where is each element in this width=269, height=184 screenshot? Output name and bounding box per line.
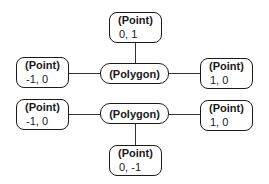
node-coords: -1, 0: [26, 73, 48, 85]
node-type-label: (Point): [25, 101, 60, 113]
node-coords: 0, -1: [119, 161, 141, 173]
edge-polygon-to-bottom-point-2: [135, 124, 136, 145]
edge-right-point-to-polygon-2: [169, 114, 200, 115]
polygon-node-1: (Polygon): [100, 63, 169, 84]
edge-left-point-to-polygon-2: [68, 114, 100, 115]
node-type-label: (Point): [209, 60, 244, 72]
point-node-right-1: (Point) 1, 0: [200, 58, 253, 89]
node-coords: 1, 0: [210, 74, 228, 86]
node-type-label: (Point): [209, 102, 244, 114]
node-type-label: (Polygon): [109, 108, 160, 120]
point-node-bottom: (Point) 0, -1: [109, 145, 162, 176]
node-type-label: (Point): [118, 147, 153, 159]
edge-right-point-to-polygon-1: [169, 73, 200, 74]
node-type-label: (Polygon): [109, 68, 160, 80]
edge-top-point-to-polygon-1: [135, 43, 136, 63]
node-coords: -1, 0: [26, 115, 48, 127]
point-node-left-1: (Point) -1, 0: [16, 57, 69, 88]
edge-left-point-to-polygon-1: [68, 73, 100, 74]
node-coords: 1, 0: [210, 116, 228, 128]
point-node-top: (Point) 0, 1: [109, 12, 162, 43]
point-node-left-2: (Point) -1, 0: [16, 99, 69, 130]
node-type-label: (Point): [118, 14, 153, 26]
node-type-label: (Point): [25, 59, 60, 71]
point-node-right-2: (Point) 1, 0: [200, 100, 253, 131]
polygon-node-2: (Polygon): [100, 103, 169, 124]
node-coords: 0, 1: [119, 28, 137, 40]
